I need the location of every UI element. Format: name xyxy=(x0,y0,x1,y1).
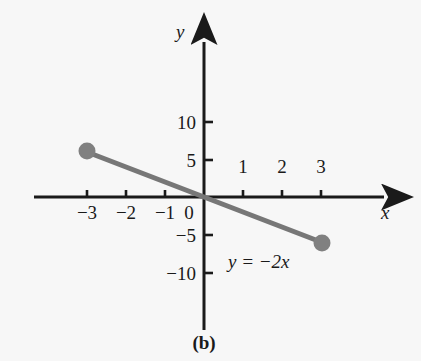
figure-caption: (b) xyxy=(180,333,228,352)
x-tick-label-1: 1 xyxy=(232,157,254,176)
figure-panel: y x −3 −2 −1 0 1 2 3 10 5 −5 −10 y = −2x… xyxy=(0,0,421,361)
x-tick-label-2: 2 xyxy=(271,157,293,176)
x-tick-label-neg1: −1 xyxy=(148,203,182,222)
coordinate-plane-graphic xyxy=(0,0,421,361)
y-tick-label-neg5: −5 xyxy=(148,226,196,245)
equation-label: y = −2x xyxy=(228,252,290,271)
y-tick-label-10: 10 xyxy=(156,113,196,132)
x-tick-label-neg2: −2 xyxy=(109,203,143,222)
endpoint-dot-left xyxy=(79,143,96,160)
x-axis-label: x xyxy=(381,203,389,222)
y-tick-label-5: 5 xyxy=(156,151,196,170)
y-tick-label-neg10: −10 xyxy=(140,264,196,283)
x-tick-label-neg3: −3 xyxy=(70,203,104,222)
endpoint-dot-right xyxy=(314,235,331,252)
y-axis-label: y xyxy=(176,22,184,41)
x-tick-label-3: 3 xyxy=(310,157,332,176)
x-tick-label-zero: 0 xyxy=(178,203,200,222)
